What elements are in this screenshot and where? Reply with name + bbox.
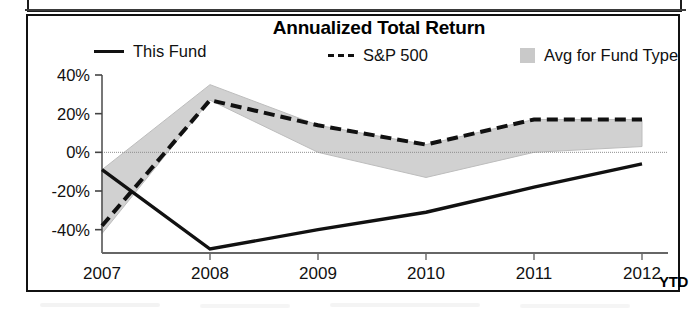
y-axis-tick-label: 20% bbox=[57, 105, 90, 123]
x-axis-tick-label: 2010 bbox=[407, 264, 445, 283]
y-axis-tick-label: -20% bbox=[51, 182, 90, 200]
chart-plot-svg: 40%20%0%-20%-40%200720082009201020112012 bbox=[28, 16, 682, 294]
series-line-this-fund bbox=[102, 164, 642, 249]
y-axis-tick-label: 0% bbox=[66, 143, 90, 161]
y-axis-tick-label: 40% bbox=[57, 66, 90, 84]
scan-smudge bbox=[520, 304, 630, 308]
annualized-total-return-panel: Annualized Total Return This Fund S&P 50… bbox=[26, 14, 680, 292]
x-axis-tick-label: 2008 bbox=[191, 264, 229, 283]
x-axis-ytd-label: YTD bbox=[659, 273, 688, 290]
scan-smudge bbox=[40, 303, 160, 307]
x-axis-tick-label: 2012 bbox=[623, 264, 661, 283]
panel-divider-rule bbox=[25, 9, 686, 11]
scan-smudge bbox=[330, 303, 480, 307]
avg-fund-type-band bbox=[102, 85, 642, 234]
x-axis-tick-label: 2011 bbox=[516, 264, 553, 283]
x-axis-tick-label: 2009 bbox=[299, 264, 337, 283]
plot-area: 40%20%0%-20%-40%200720082009201020112012 bbox=[28, 16, 682, 294]
y-axis-tick-label: -40% bbox=[51, 221, 90, 239]
x-axis-tick-label: 2007 bbox=[83, 264, 121, 283]
scan-smudge bbox=[200, 304, 290, 308]
